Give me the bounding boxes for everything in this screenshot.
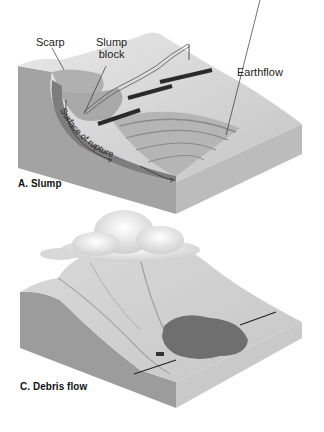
storm-cloud bbox=[40, 210, 200, 262]
car-icon bbox=[156, 352, 164, 356]
earthflow-label: Earthflow bbox=[237, 66, 283, 78]
slump-block-label-line2: block bbox=[96, 48, 127, 60]
panel-c-caption: C. Debris flow bbox=[20, 380, 87, 392]
slump-block-label-line1: Slump bbox=[96, 36, 127, 48]
slump-block-label: Slump block bbox=[96, 36, 127, 60]
diagram-canvas: Surface of rupture bbox=[0, 0, 324, 432]
panel-a-caption: A. Slump bbox=[18, 177, 62, 189]
scarp-label: Scarp bbox=[36, 36, 65, 48]
